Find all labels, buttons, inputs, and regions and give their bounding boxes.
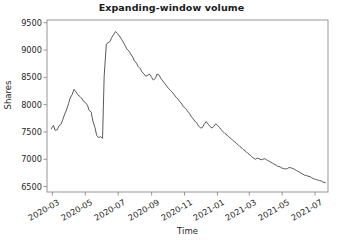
plot-background — [47, 20, 328, 192]
y-tick-label: 7000 — [6, 154, 42, 164]
y-tick-label: 7500 — [6, 127, 42, 137]
y-tick-label: 6500 — [6, 182, 42, 192]
y-tick-label: 8500 — [6, 72, 42, 82]
y-tick-label: 8000 — [6, 100, 42, 110]
y-tick-label: 9500 — [6, 18, 42, 28]
y-tick-label: 9000 — [6, 45, 42, 55]
chart-figure: Expanding-window volume Shares Time 6500… — [0, 0, 343, 242]
